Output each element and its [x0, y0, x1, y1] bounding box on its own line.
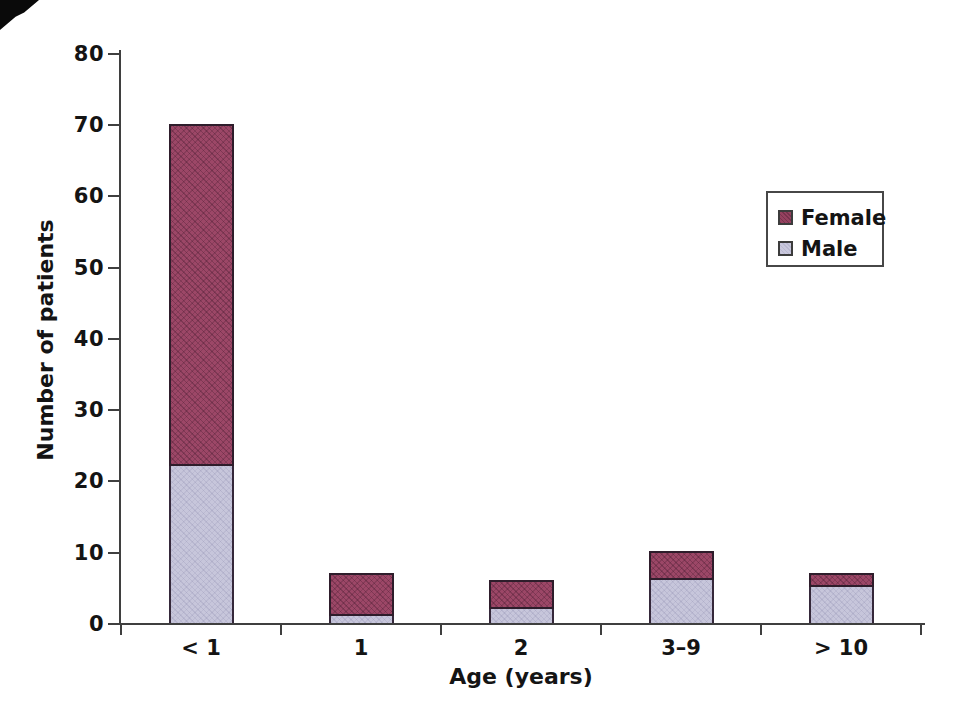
y-tick-label: 50 — [44, 255, 104, 281]
bar-segment-male — [489, 609, 554, 623]
male-swatch-icon — [778, 241, 793, 256]
y-axis-tick — [108, 409, 120, 411]
bar-segment-male — [809, 587, 874, 623]
y-tick-label: 30 — [44, 397, 104, 423]
bar-segment-female — [809, 573, 874, 587]
scan-corner-artifact — [0, 0, 39, 30]
y-tick-label: 60 — [44, 183, 104, 209]
legend-label: Male — [801, 238, 858, 260]
x-axis-title: Age (years) — [371, 662, 671, 692]
y-axis-tick — [108, 552, 120, 554]
bar-segment-female — [489, 580, 554, 609]
y-axis-tick — [108, 53, 120, 55]
bar-segment-male — [329, 616, 394, 623]
y-tick-label: 10 — [44, 540, 104, 566]
bar-segment-female — [329, 573, 394, 616]
bar-age-1 — [329, 573, 394, 623]
x-category-label: > 10 — [761, 634, 921, 662]
x-category-label: 3–9 — [601, 634, 761, 662]
stacked-bar-chart-figure: Number of patients Age (years) FemaleMal… — [0, 0, 961, 704]
bar-age->10 — [809, 573, 874, 623]
bar-segment-male — [649, 580, 714, 623]
y-axis-tick — [108, 480, 120, 482]
female-swatch-icon — [778, 210, 793, 225]
y-axis-tick — [108, 124, 120, 126]
y-axis-tick — [108, 195, 120, 197]
x-axis-tick — [120, 625, 122, 635]
y-tick-label: 0 — [44, 611, 104, 637]
legend-item-male: Male — [778, 233, 882, 264]
x-category-label: < 1 — [121, 634, 281, 662]
legend-label: Female — [801, 207, 886, 229]
y-axis-tick — [108, 338, 120, 340]
bar-age-3–9 — [649, 551, 714, 623]
x-axis-line — [119, 623, 925, 625]
x-category-label: 2 — [441, 634, 601, 662]
legend-item-female: Female — [778, 202, 882, 233]
x-category-label: 1 — [281, 634, 441, 662]
y-axis-tick — [108, 623, 120, 625]
y-axis-tick — [108, 267, 120, 269]
bar-segment-male — [169, 466, 234, 623]
bar-segment-female — [169, 124, 234, 466]
legend-box: FemaleMale — [766, 191, 884, 267]
y-tick-label: 20 — [44, 468, 104, 494]
y-tick-label: 40 — [44, 326, 104, 352]
bar-age-<1 — [169, 124, 234, 623]
bar-segment-female — [649, 551, 714, 580]
y-tick-label: 70 — [44, 112, 104, 138]
y-tick-label: 80 — [44, 41, 104, 67]
bar-age-2 — [489, 580, 554, 623]
